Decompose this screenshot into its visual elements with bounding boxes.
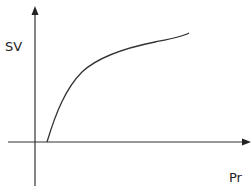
- sv-pr-diagram: SV Pr: [0, 0, 252, 193]
- y-axis-label: SV: [5, 39, 22, 54]
- y-axis-arrowhead: [32, 6, 39, 15]
- x-axis-arrowhead: [242, 139, 251, 146]
- sv-curve: [47, 33, 189, 142]
- x-axis-label: Pr: [229, 170, 243, 185]
